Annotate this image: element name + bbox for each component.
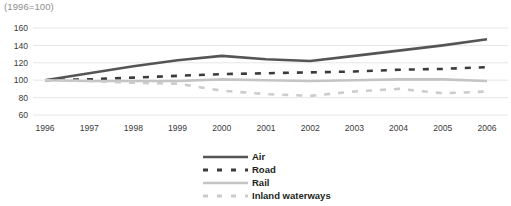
x-tick-label: 2001 bbox=[256, 123, 275, 133]
x-tick-label: 2006 bbox=[477, 123, 496, 133]
y-tick-label: 80 bbox=[18, 93, 28, 103]
legend-label-inland-waterways: Inland waterways bbox=[252, 191, 331, 201]
x-tick-label: 1997 bbox=[80, 123, 99, 133]
legend-swatch-air bbox=[203, 152, 248, 162]
x-tick-label: 1998 bbox=[124, 123, 143, 133]
y-axis-tick-labels: 6080100120140160 bbox=[14, 23, 29, 120]
x-tick-label: 2000 bbox=[212, 123, 231, 133]
y-tick-label: 140 bbox=[14, 41, 29, 51]
legend-label-road: Road bbox=[252, 165, 276, 175]
x-tick-label: 2002 bbox=[301, 123, 320, 133]
x-axis-tick-labels: 1996199719981999200020012002200320042005… bbox=[35, 123, 496, 133]
legend-item-inland-waterways: Inland waterways bbox=[203, 189, 433, 202]
legend-item-rail: Rail bbox=[203, 176, 433, 189]
series-line-rail bbox=[45, 79, 487, 81]
x-tick-label: 2005 bbox=[433, 123, 452, 133]
y-tick-label: 60 bbox=[18, 110, 28, 120]
y-tick-label: 120 bbox=[14, 58, 29, 68]
legend-swatch-rail bbox=[203, 178, 248, 188]
y-tick-label: 100 bbox=[14, 75, 29, 85]
x-tick-label: 2003 bbox=[345, 123, 364, 133]
legend-swatch-inland-waterways bbox=[203, 191, 248, 201]
series-lines bbox=[45, 39, 487, 96]
x-tick-label: 1999 bbox=[168, 123, 187, 133]
legend-item-air: Air bbox=[203, 150, 433, 163]
x-tick-label: 1996 bbox=[35, 123, 54, 133]
y-tick-label: 160 bbox=[14, 23, 29, 33]
chart-legend: Air Road Rail Inland waterways bbox=[203, 150, 433, 202]
chart-figure: (1996=100) 6080100120140160 199619971998… bbox=[0, 0, 511, 206]
legend-swatch-road bbox=[203, 165, 248, 175]
legend-label-air: Air bbox=[252, 152, 265, 162]
series-line-inland-waterways bbox=[45, 80, 487, 96]
legend-item-road: Road bbox=[203, 163, 433, 176]
legend-label-rail: Rail bbox=[252, 178, 269, 188]
x-tick-label: 2004 bbox=[389, 123, 408, 133]
